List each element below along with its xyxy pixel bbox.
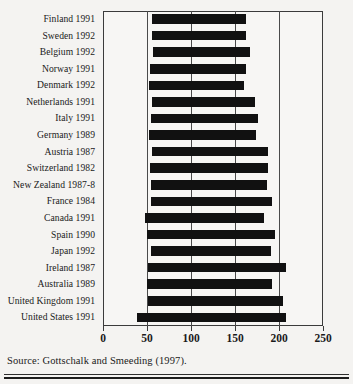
- bar: [151, 246, 272, 256]
- category-label: Belgium 1992: [40, 44, 95, 61]
- bar-row: [103, 177, 323, 194]
- plot-area: [103, 11, 323, 326]
- x-tick-label: 250: [314, 332, 331, 344]
- category-label: Australia 1989: [38, 276, 95, 293]
- bar: [149, 81, 244, 91]
- bar-row: [103, 77, 323, 94]
- category-label: Finland 1991: [43, 11, 95, 28]
- bar: [149, 130, 256, 140]
- bar-row: [103, 276, 323, 293]
- bar: [150, 64, 246, 74]
- bar-row: [103, 160, 323, 177]
- category-label: New Zealand 1987-8: [13, 177, 95, 194]
- bar-rows: [103, 11, 323, 326]
- x-tick-0: [103, 326, 104, 331]
- bar-row: [103, 11, 323, 28]
- bar: [148, 263, 286, 273]
- x-tick-150: [235, 326, 236, 331]
- bar: [152, 97, 255, 107]
- bar: [152, 14, 245, 24]
- category-label: Sweden 1992: [42, 28, 95, 45]
- category-label: Ireland 1987: [46, 260, 95, 277]
- bar-row: [103, 210, 323, 227]
- category-axis-labels: Finland 1991Sweden 1992Belgium 1992Norwa…: [0, 11, 99, 326]
- category-label: Italy 1991: [55, 110, 95, 127]
- bar: [152, 147, 267, 157]
- x-tick-label: 150: [226, 332, 243, 344]
- source-note: Source: Gottschalk and Smeeding (1997).: [7, 355, 187, 366]
- bar-row: [103, 260, 323, 277]
- bar-row: [103, 193, 323, 210]
- x-tick-label: 200: [270, 332, 287, 344]
- bar: [151, 114, 258, 124]
- bar-row: [103, 28, 323, 45]
- category-label: Germany 1989: [37, 127, 95, 144]
- bar-row: [103, 293, 323, 310]
- x-tick-label: 50: [141, 332, 153, 344]
- bar: [145, 213, 264, 223]
- bar-row: [103, 227, 323, 244]
- x-tick-label: 0: [100, 332, 106, 344]
- bar: [147, 279, 272, 289]
- bar: [148, 296, 284, 306]
- bar: [147, 230, 275, 240]
- bar-row: [103, 110, 323, 127]
- x-tick-200: [279, 326, 280, 331]
- category-label: Switzerland 1982: [27, 160, 95, 177]
- category-label: United Kingdom 1991: [8, 293, 95, 310]
- bar-row: [103, 309, 323, 326]
- category-label: United States 1991: [21, 309, 95, 326]
- category-label: Norway 1991: [42, 61, 95, 78]
- horizontal-rule-top: [4, 374, 349, 375]
- category-label: Denmark 1992: [37, 77, 95, 94]
- x-axis-ticks: [103, 326, 323, 331]
- horizontal-rule-bottom: [4, 377, 349, 379]
- x-tick-100: [191, 326, 192, 331]
- category-label: France 1984: [47, 193, 95, 210]
- bar: [151, 197, 272, 207]
- x-tick-250: [323, 326, 324, 331]
- category-label: Spain 1990: [51, 227, 95, 244]
- bar: [151, 180, 267, 190]
- bar: [150, 163, 268, 173]
- x-axis-tick-labels: 050100150200250: [103, 332, 323, 348]
- bar-row: [103, 243, 323, 260]
- category-label: Canada 1991: [44, 210, 95, 227]
- category-label: Netherlands 1991: [26, 94, 95, 111]
- bar: [152, 31, 245, 41]
- bar-row: [103, 44, 323, 61]
- bar-row: [103, 61, 323, 78]
- bar-row: [103, 127, 323, 144]
- bar: [137, 313, 286, 323]
- x-tick-50: [147, 326, 148, 331]
- category-label: Austria 1987: [45, 144, 95, 161]
- bar-row: [103, 94, 323, 111]
- x-tick-label: 100: [182, 332, 199, 344]
- chart-figure: Finland 1991Sweden 1992Belgium 1992Norwa…: [0, 0, 353, 384]
- bar-row: [103, 144, 323, 161]
- bar: [153, 47, 250, 57]
- category-label: Japan 1992: [51, 243, 95, 260]
